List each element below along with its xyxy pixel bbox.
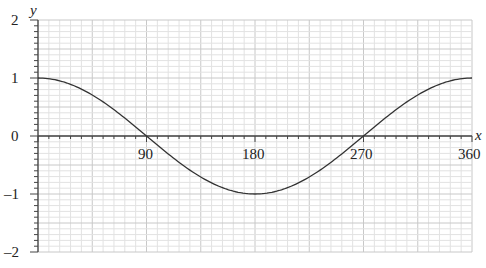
y-tick-neg2: –2 — [3, 244, 19, 260]
y-tick-1: 1 — [11, 70, 19, 86]
cosine-chart: y x 2 1 0 –1 –2 90 180 270 360 — [0, 0, 486, 268]
y-tick-2: 2 — [11, 12, 19, 28]
y-axis-label: y — [28, 2, 37, 18]
y-tick-neg1: –1 — [3, 186, 19, 202]
x-axis-label: x — [474, 127, 482, 143]
y-tick-0: 0 — [11, 128, 19, 144]
x-tick-270: 270 — [350, 146, 373, 162]
x-tick-180: 180 — [242, 146, 265, 162]
x-tick-90: 90 — [138, 146, 153, 162]
x-tick-360: 360 — [458, 146, 481, 162]
axis-labels: y x 2 1 0 –1 –2 90 180 270 360 — [3, 2, 482, 260]
